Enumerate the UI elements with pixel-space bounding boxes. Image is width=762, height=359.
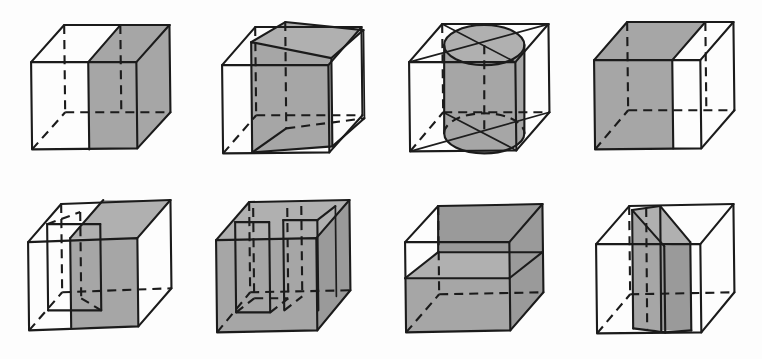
wedge-left-front-vertical <box>632 211 633 329</box>
figure-3-drawing <box>381 0 572 180</box>
inner-box-front-face <box>251 42 332 152</box>
cube-back-right-edge <box>733 205 734 293</box>
figure-2-drawing <box>191 0 382 180</box>
cube-back-right-edge <box>542 205 543 293</box>
cube-back-right-edge <box>733 22 734 110</box>
figure-8-drawing <box>572 180 762 359</box>
figure-cube-horizontal-shelf <box>381 180 572 359</box>
cube-edge-bottom-right <box>138 289 171 327</box>
figure-cube-vertical-slab-right <box>0 0 191 180</box>
slab-front-right-vertical <box>672 60 673 148</box>
wedge-fold-vertical <box>660 207 661 331</box>
figure-grid <box>0 0 762 359</box>
cube-hidden-bottom-left-edge <box>32 112 65 149</box>
slab-2-right-vertical <box>317 221 318 311</box>
slab-2-left-vertical <box>283 221 284 311</box>
cube-hidden-bottom-left-edge <box>597 295 630 334</box>
cube-edge-top-left <box>405 207 438 243</box>
cube-hidden-back-left-vertical <box>61 205 62 293</box>
cube-edge-bottom-right <box>701 293 734 333</box>
cube-hidden-bottom-left-edge <box>410 112 443 151</box>
figure-4-drawing <box>572 0 762 180</box>
cube-edge-top-right <box>700 205 733 245</box>
cube-hidden-back-left-vertical <box>442 24 443 112</box>
slab-2-right-rear-vertical <box>335 207 336 297</box>
wedge-right-vertical <box>690 243 691 331</box>
figure-cube-vertical-slab-left <box>572 0 762 180</box>
notch-inner-right-vertical <box>100 225 101 311</box>
figure-cube-inscribed-box <box>191 0 382 180</box>
figure-5-drawing <box>0 180 191 359</box>
slab-front-left-vertical <box>88 62 89 149</box>
figure-sheet <box>0 0 762 359</box>
cube-back-right-edge <box>349 201 350 291</box>
notch-inner-left-vertical <box>47 225 48 311</box>
figure-1-drawing <box>0 0 191 180</box>
figure-cube-multiple-slabs <box>191 180 382 359</box>
figure-7-drawing <box>381 180 572 359</box>
cube-edge-bottom-right <box>701 110 734 148</box>
cube-hidden-back-left-vertical <box>629 207 630 295</box>
slab-front-face <box>88 62 137 149</box>
figure-cube-slab-with-notch <box>0 180 191 359</box>
cube-back-right-edge <box>361 27 362 115</box>
slab-top-face <box>70 201 170 239</box>
inner-box-hidden-rear-vertical-left <box>285 22 286 128</box>
shelf-lower-front-face <box>405 279 510 333</box>
slab-hidden-rear-vertical <box>705 22 706 110</box>
figure-cube-central-wedge <box>572 180 762 359</box>
figure-6-drawing <box>191 180 382 359</box>
cube-back-right-edge <box>170 201 171 289</box>
inner-box-rear-right-vertical <box>363 30 364 118</box>
notch-front-left-vertical <box>70 239 71 328</box>
cube-edge-top-left <box>596 207 629 245</box>
wedge-inner-vertical <box>664 247 665 333</box>
cube-back-top-edge <box>629 205 733 207</box>
cube-back-right-edge <box>548 24 549 112</box>
cube-hidden-back-left-vertical <box>64 25 65 112</box>
slab-front-face <box>70 239 138 328</box>
cube-edge-top-left <box>409 24 442 62</box>
slab-1-left-vertical <box>235 223 236 313</box>
cube-back-right-edge <box>169 25 170 112</box>
cube-edge-top-left <box>31 25 64 62</box>
figure-cube-inscribed-cylinder <box>381 0 572 180</box>
